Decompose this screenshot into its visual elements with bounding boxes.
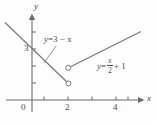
- open-endpoint-lower: [66, 81, 71, 86]
- annotation-leader-line: [44, 46, 56, 63]
- line-y-equals-3-minus-x: [5, 23, 68, 84]
- piecewise-function-graph: y x 0 2 4 3 y=3 − x y=x2+ 1: [0, 0, 156, 124]
- x-axis: [6, 97, 145, 104]
- y-tick-label-3: 3: [24, 44, 29, 53]
- y-axis: [29, 14, 36, 113]
- fraction-denominator: 2: [107, 67, 113, 75]
- equation-line2-equals: =: [101, 61, 106, 71]
- equation-line1-body: 3 − x: [53, 34, 72, 44]
- equation-label-line1: y=3 − x: [44, 35, 72, 44]
- x-axis-label: x: [147, 94, 151, 103]
- equation-line2-tail: + 1: [114, 61, 126, 71]
- fraction-x-over-2: x2: [107, 57, 113, 74]
- equation-label-line2: y=x2+ 1: [97, 57, 126, 74]
- x-axis-arrowhead: [138, 97, 145, 103]
- x-tick-label-4: 4: [113, 103, 118, 112]
- open-endpoint-upper: [66, 65, 71, 70]
- fraction-numerator: x: [107, 57, 113, 65]
- y-axis-label: y: [34, 2, 38, 11]
- x-tick-label-2: 2: [65, 103, 70, 112]
- y-axis-arrowhead: [29, 14, 35, 21]
- origin-tick-label: 0: [21, 103, 26, 112]
